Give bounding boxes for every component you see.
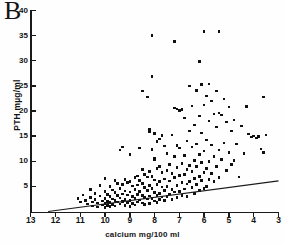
figure-panel-b: B PTH mµg/ml calcium mg/100 ml 510152025… [0,0,285,245]
regression-line [0,0,285,245]
